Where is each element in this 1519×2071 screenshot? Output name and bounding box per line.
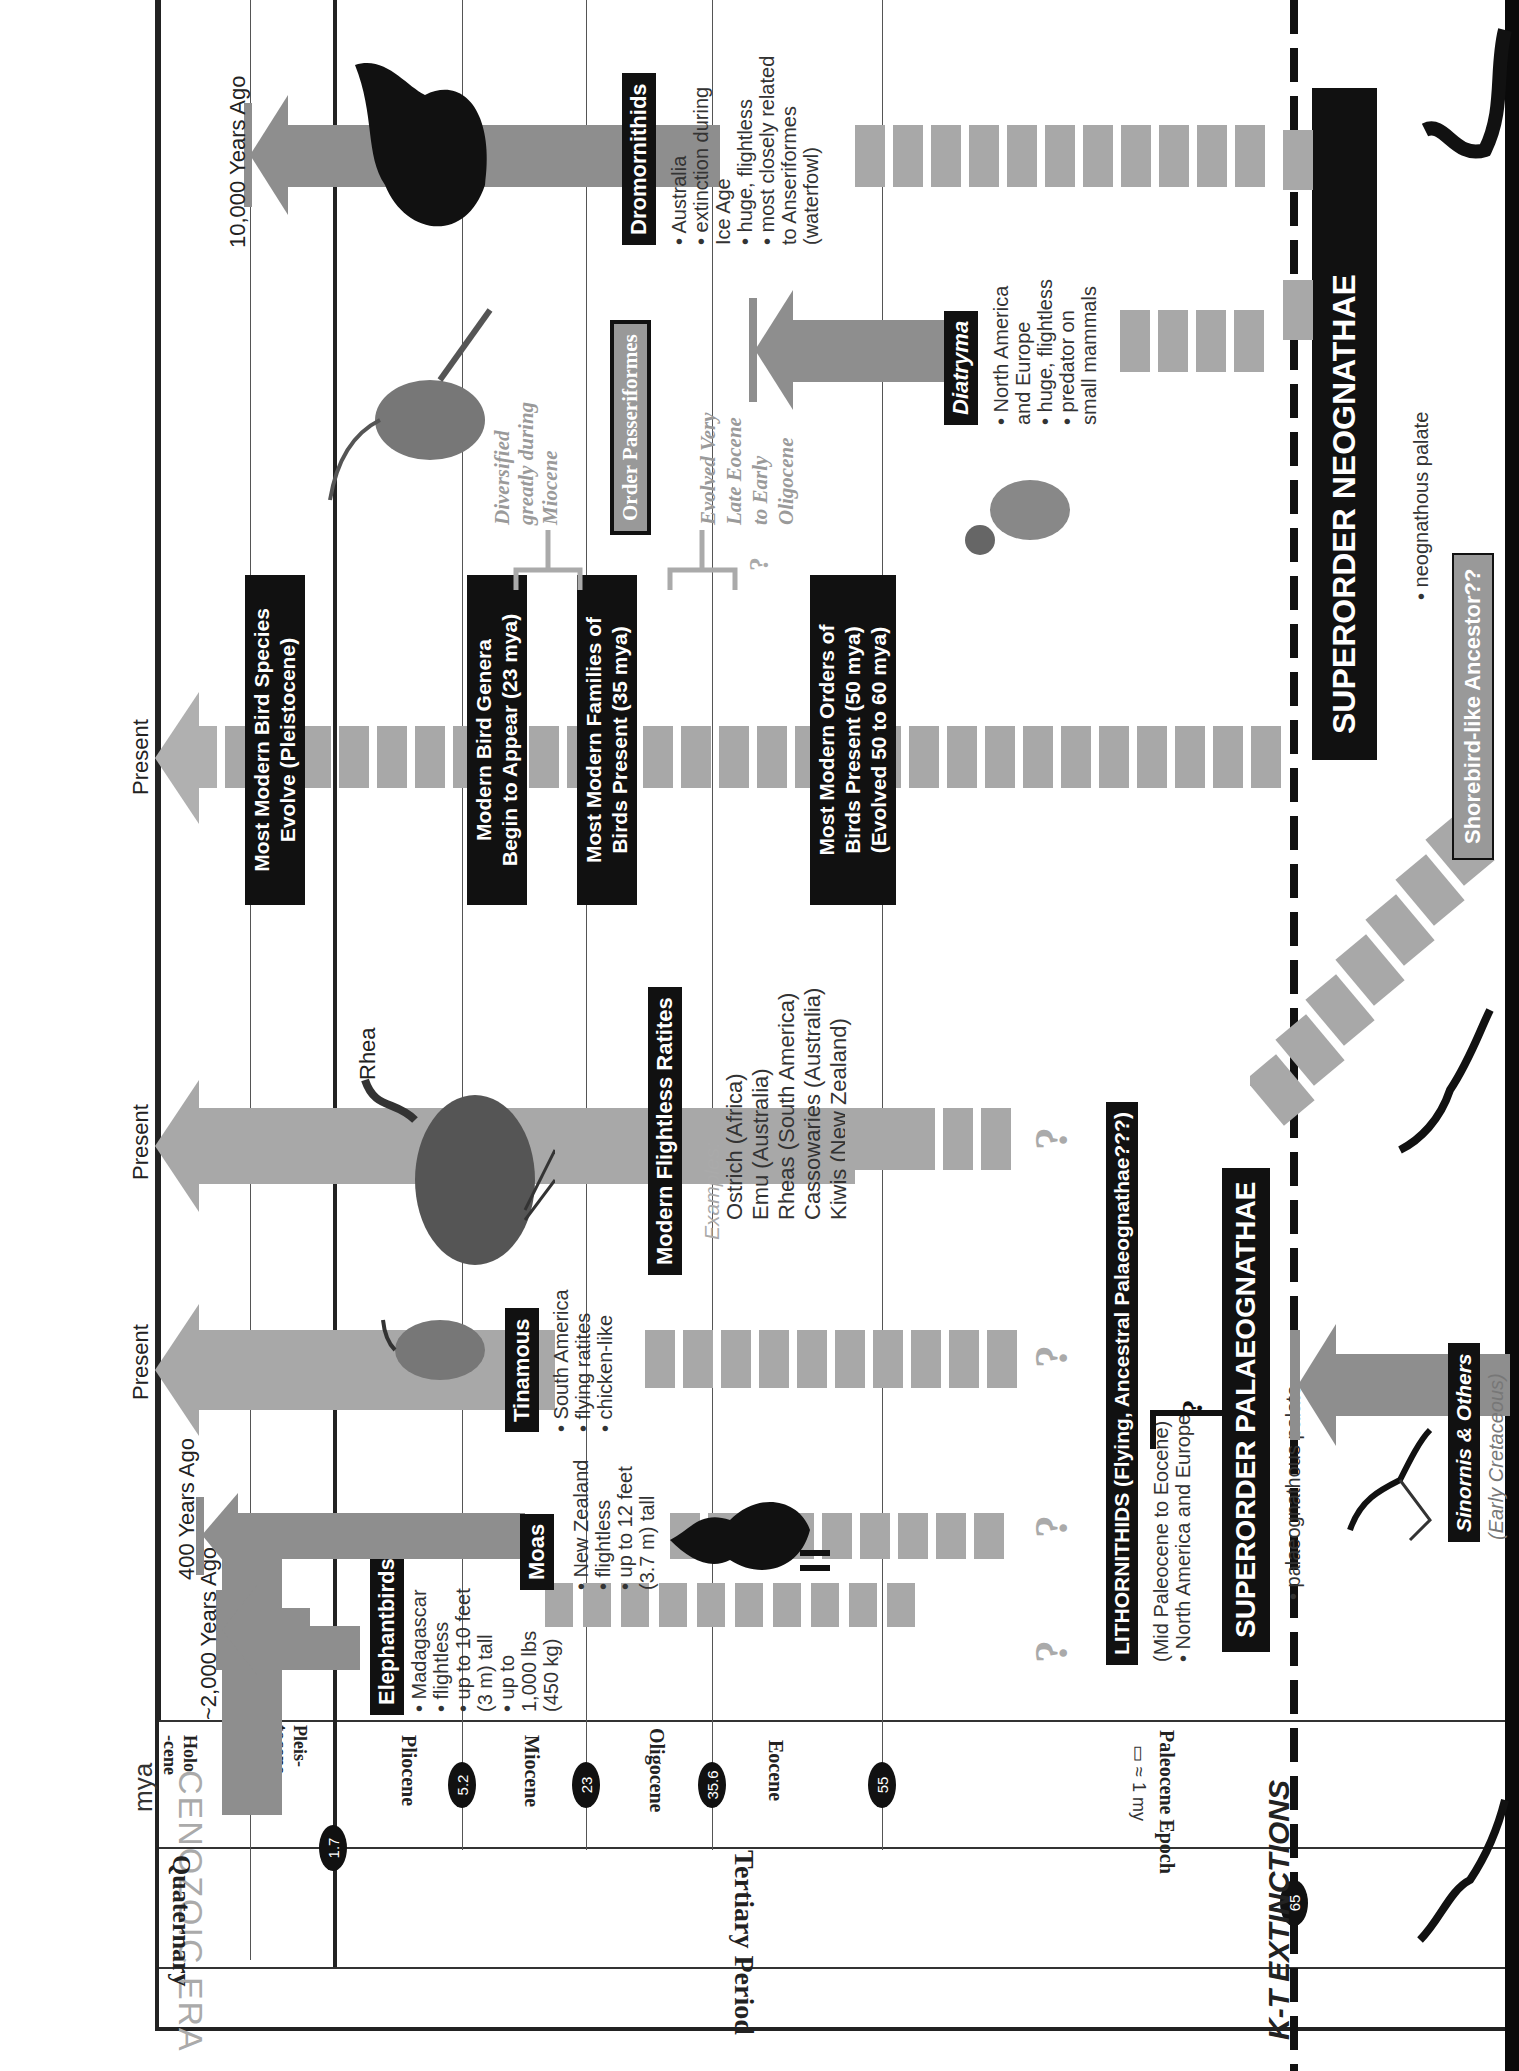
lithornithids-title: LITHORNITHIDS (Flying, Ancestral Palaeog… xyxy=(1106,1102,1138,1665)
marker-55: 55 xyxy=(868,1762,896,1808)
ratites-examples-list: Ostrich (Africa) Emu (Australia) Rheas (… xyxy=(722,988,852,1220)
divider-era-period xyxy=(159,1967,1505,1969)
marker-5.2: 5.2 xyxy=(448,1762,476,1808)
palaeognathae-title: SUPERORDER PALAEOGNATHAE xyxy=(1222,1168,1270,1652)
mya-axis-label: mya xyxy=(128,1763,159,1812)
epoch-eocene: Eocene xyxy=(764,1740,787,1801)
tinamous-bullets: • South America • flying ratites • chick… xyxy=(550,1289,616,1432)
neognath-fossil-skeleton-illustration xyxy=(1380,1000,1500,1180)
ratite-origin-question: ? xyxy=(1025,1127,1078,1150)
dromornithid-silhouette-illustration xyxy=(345,35,505,255)
lithornithid-link-question: ? xyxy=(1175,1400,1209,1415)
passerine-origin-question: ? xyxy=(743,557,775,571)
archaic-bird-skeleton-illustration xyxy=(1400,1790,1510,1990)
marker-1.7: 1.7 xyxy=(319,1825,347,1871)
modern-end-label: Present xyxy=(128,719,154,795)
sinornis-subtitle: (Early Cretaceous) xyxy=(1485,1373,1508,1540)
neognathae-bullets: • neognathous palate xyxy=(1410,412,1432,600)
diatryma-illustration xyxy=(960,440,1100,570)
sinornis-title: Sinornis & Others xyxy=(1448,1343,1480,1542)
epoch-pliocene: Pliocene xyxy=(397,1735,420,1806)
elephantbirds-title: Elephantbirds xyxy=(370,1548,404,1715)
milestone-species: Most Modern Bird Species Evolve (Pleisto… xyxy=(245,575,305,905)
moa-extinction-arrow xyxy=(192,1475,312,1595)
shorebird-ancestor-title: Shorebird-like Ancestor?? xyxy=(1452,553,1494,860)
scale-note: ▭ ≈ 1 my xyxy=(1128,1745,1150,1821)
kt-extinctions-label: K-T EXTINCTIONS xyxy=(1262,1780,1296,2040)
passerine-note-origin: Evolved Very Late Eocene to Early Oligoc… xyxy=(695,412,799,525)
diatryma-title: Diatryma xyxy=(944,311,978,425)
line-present xyxy=(157,0,161,1720)
tinamou-origin-question: ? xyxy=(1025,1345,1078,1368)
elephantbird-origin-question: ? xyxy=(1025,1640,1078,1663)
milestone-families: Most Modern Families of Birds Present (3… xyxy=(577,575,637,905)
diatryma-bullets: • North America and Europe • huge, fligh… xyxy=(990,279,1100,425)
neognath-skeleton-illustration xyxy=(1405,10,1515,210)
period-quaternary: Quaternary xyxy=(166,1855,196,1986)
divider-period-epoch xyxy=(159,1847,1505,1849)
epoch-oligocene: Oligocene xyxy=(645,1728,668,1812)
dromornithids-bullets: • Australia • extinction during Ice Age … xyxy=(668,56,822,245)
ratite-end-label: Present xyxy=(128,1104,154,1180)
moas-bullets: • New Zealand • flightless • up to 12 fe… xyxy=(570,1460,658,1590)
moa-origin-question: ? xyxy=(1025,1515,1078,1538)
line-55 xyxy=(882,0,883,1850)
epoch-paleocene: Paleocene Epoch xyxy=(1155,1730,1178,1874)
tinamou-end-label: Present xyxy=(128,1324,154,1400)
ratites-title: Modern Flightless Ratites xyxy=(648,987,682,1275)
passeriformes-title: Order Passeriformes xyxy=(610,320,651,535)
dromornithids-title: Dromornithids xyxy=(622,73,656,245)
lithornithid-connector xyxy=(1150,1415,1156,1449)
modern-dashed-trunk xyxy=(225,726,1281,788)
epoch-miocene: Miocene xyxy=(520,1735,543,1807)
dromornithid-dashed-range xyxy=(855,125,1265,187)
moas-title: Moas xyxy=(520,1514,554,1590)
marker-23: 23 xyxy=(572,1762,600,1808)
ratite-dashed-range xyxy=(845,1108,1011,1170)
marker-35.6: 35.6 xyxy=(698,1762,726,1808)
elephantbird-solid-range xyxy=(270,1626,360,1670)
moa-solid-range xyxy=(310,1513,525,1559)
tinamous-title: Tinamous xyxy=(505,1308,539,1432)
tinamou-present-arrow xyxy=(155,1300,555,1440)
dromornithid-end-label: 10,000 Years Ago xyxy=(225,76,251,249)
period-tertiary: Tertiary Period xyxy=(728,1850,760,2035)
lithornithids-bullets: (Mid Paleocene to Eocene) • North Americ… xyxy=(1150,1414,1194,1662)
line-5.2 xyxy=(462,0,463,1850)
diatryma-extinction-arrow xyxy=(745,290,945,420)
rhea-illustration xyxy=(355,1060,555,1270)
milestone-genera: Modern Bird Genera Begin to Appear (23 m… xyxy=(467,575,527,905)
neognathae-title: SUPERORDER NEOGNATHAE xyxy=(1312,88,1377,760)
tinamou-illustration xyxy=(380,1300,490,1400)
diatryma-dashed-range xyxy=(1120,310,1264,372)
sinornis-skeleton-illustration xyxy=(1320,1420,1440,1560)
outer-frame-bottom xyxy=(155,2027,1505,2031)
divider-epoch-chart xyxy=(159,1720,1505,1722)
passerine-songbird-illustration xyxy=(320,300,520,530)
milestone-orders: Most Modern Orders of Birds Present (50 … xyxy=(810,575,896,905)
neognath-origin-dashes xyxy=(1283,130,1313,340)
moa-end-label: 400 Years Ago xyxy=(174,1438,200,1580)
moa-silhouette-illustration xyxy=(660,1470,830,1610)
ratites-examples-label: Examples: xyxy=(700,1142,724,1240)
epoch-holocene: Holo -cene xyxy=(160,1735,200,1775)
elephantbirds-bullets: • Madagascar • flightless • up to 10 fee… xyxy=(408,1588,562,1712)
tinamou-dashed-range xyxy=(645,1330,1017,1388)
line-1.7 xyxy=(333,0,337,1967)
